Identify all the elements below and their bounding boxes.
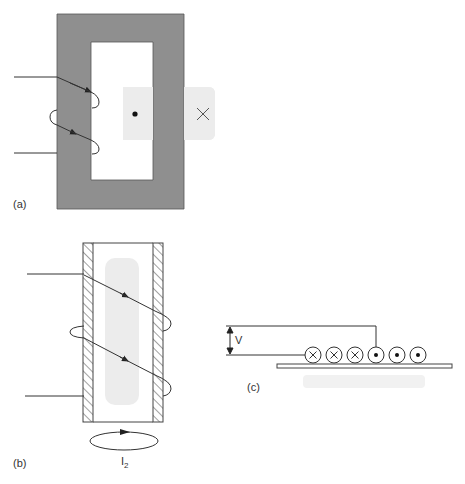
strip-shade — [303, 375, 425, 388]
dot-symbol-icon — [132, 111, 137, 116]
panel-a: (a) — [13, 14, 215, 210]
panel-b: I2 (b) — [13, 243, 171, 470]
voltage-label: V — [235, 334, 243, 346]
panel-c: V — [226, 326, 452, 393]
helical-coil — [25, 274, 171, 396]
panel-label-c: (c) — [247, 381, 260, 393]
conductor-dot-icon — [368, 347, 384, 363]
panel-label-b: (b) — [13, 457, 26, 469]
conductor-dot-icon — [389, 347, 405, 363]
inner-field-shade — [105, 258, 139, 405]
conductor-dot-icon — [410, 347, 426, 363]
magnetic-core — [57, 14, 184, 209]
conducting-strip — [277, 364, 452, 368]
current-arrow-icon — [120, 429, 130, 435]
conductor-cross-icon — [326, 347, 342, 363]
voltage-arrow-icon — [227, 327, 233, 354]
conductor-cross-icon — [305, 347, 321, 363]
current-loop — [90, 432, 158, 450]
conductor-cross-icon — [347, 347, 363, 363]
figure-canvas: (a) I2 (b) — [0, 0, 465, 484]
current-label: I2 — [121, 455, 129, 470]
cylinder-wall-left — [83, 243, 93, 422]
cylinder-wall-right — [153, 243, 163, 422]
conductor-row — [305, 347, 426, 363]
field-region-shade-inner — [123, 87, 153, 140]
panel-label-a: (a) — [13, 198, 26, 210]
